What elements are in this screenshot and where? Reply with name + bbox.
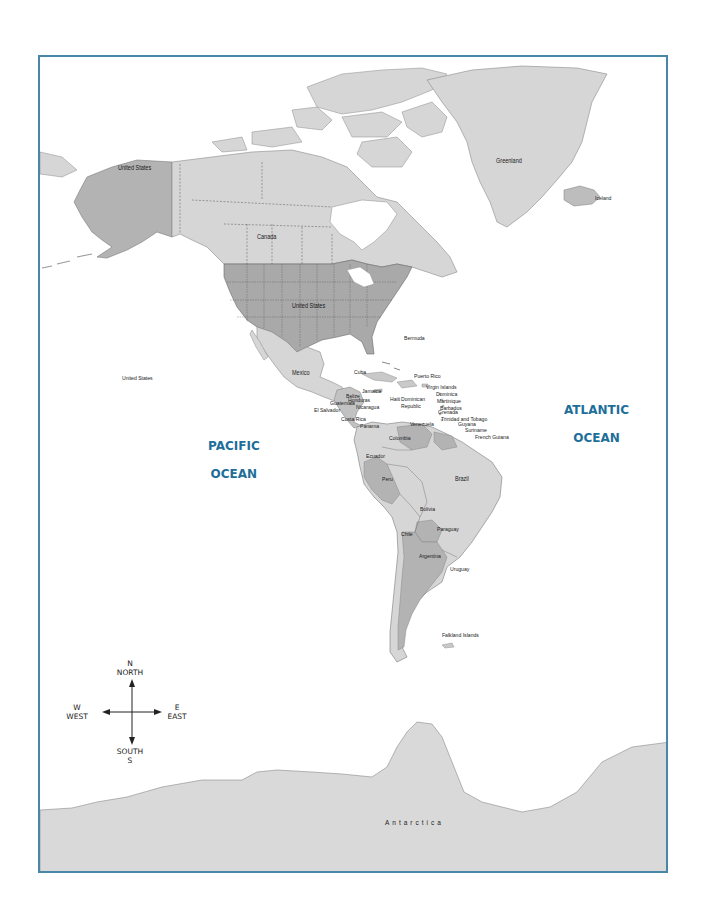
pacific-line2: OCEAN — [208, 468, 260, 480]
label-alaska: United States — [118, 165, 151, 172]
label-antarctica: Antarctica — [385, 819, 444, 826]
east-word: EAST — [162, 712, 192, 721]
label-nicaragua: Nicaragua — [356, 404, 379, 410]
label-cuba: Cuba — [354, 369, 366, 375]
label-paraguay: Paraguay — [437, 526, 459, 532]
label-uruguay: Uruguay — [450, 566, 469, 572]
north-word: NORTH — [110, 668, 150, 677]
pacific-line1: PACIFIC — [208, 440, 260, 452]
label-dominican-republic: Dominican Republic — [401, 396, 427, 409]
compass-arrows-icon — [102, 679, 162, 745]
south-letter: S — [110, 756, 150, 765]
alaska-shape — [74, 160, 172, 258]
label-dominica: Dominica — [436, 391, 457, 397]
label-greenland: Greenland — [496, 158, 522, 165]
canada-shape — [172, 150, 457, 277]
label-falkland-islands: Falkland Islands — [442, 632, 479, 638]
label-french-guiana: French Guiana — [475, 434, 509, 440]
label-hawaii: United States — [122, 375, 153, 381]
compass-west: W WEST — [62, 703, 92, 722]
argentina-shape — [398, 532, 447, 650]
label-jamaica: Jamaica — [362, 388, 381, 394]
map-frame: United States Canada United States Unite… — [38, 55, 668, 873]
west-letter: W — [62, 703, 92, 712]
atlantic-line2: OCEAN — [564, 432, 629, 444]
label-panama: Panama — [360, 423, 379, 429]
label-honduras: Honduras — [348, 397, 370, 403]
south-word: SOUTH — [110, 747, 150, 756]
label-iceland: Iceland — [595, 195, 611, 201]
label-united-states: United States — [292, 303, 325, 310]
arctic-islands — [212, 68, 447, 167]
chukotka-shape — [40, 152, 77, 177]
aleutian-islands — [42, 254, 92, 268]
label-costa-rica: Costa Rica — [341, 416, 366, 422]
compass-north: N NORTH — [110, 659, 150, 678]
label-colombia: Colombia — [389, 435, 411, 441]
label-venezuela: Venezuela — [410, 421, 434, 427]
label-canada: Canada — [257, 234, 276, 241]
falklands-shape — [442, 643, 454, 648]
compass-east: E EAST — [162, 703, 192, 722]
atlantic-ocean-label: ATLANTIC OCEAN — [564, 404, 629, 444]
pacific-ocean-label: PACIFIC OCEAN — [208, 440, 260, 480]
compass-south: SOUTH S — [110, 747, 150, 766]
label-bolivia: Bolivia — [420, 506, 435, 512]
label-ecuador: Ecuador — [366, 453, 385, 459]
label-suriname: Suriname — [465, 427, 487, 433]
label-haiti: Haiti — [390, 396, 400, 402]
label-peru: Peru — [382, 476, 393, 482]
north-letter: N — [110, 659, 150, 668]
label-mexico: Mexico — [292, 370, 310, 377]
label-argentina: Argentina — [419, 553, 441, 559]
label-el-salvador: El Salvador — [314, 407, 340, 413]
label-puerto-rico: Puerto Rico — [414, 373, 441, 379]
label-grenada: Grenada — [438, 409, 458, 415]
label-brazil: Brazil — [455, 476, 469, 483]
atlantic-line1: ATLANTIC — [564, 404, 629, 416]
east-letter: E — [162, 703, 192, 712]
label-virgin-islands: Virgin Islands — [426, 384, 457, 390]
label-bermuda: Bermuda — [404, 335, 425, 341]
west-word: WEST — [62, 712, 92, 721]
label-martinique: Martinique — [437, 398, 461, 404]
label-chile: Chile — [401, 531, 413, 537]
